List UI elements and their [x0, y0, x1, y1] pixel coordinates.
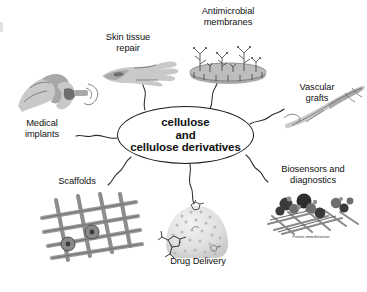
label-vascular-grafts: Vascular grafts [286, 82, 348, 104]
cellulose-applications-diagram: cellulose and cellulose derivatives Medi… [0, 0, 367, 292]
label-skin-tissue-repair: Skin tissue repair [92, 32, 164, 54]
illustration-biosensors [264, 192, 362, 236]
label-biosensors-and-diagnostics: Biosensors and diagnostics [263, 164, 363, 186]
label-medical-implants: Medical implants [6, 118, 78, 140]
label-drug-delivery: Drug Delivery [152, 256, 244, 267]
illustration-scaffolds [36, 192, 146, 264]
connector-medical-implants [76, 135, 117, 138]
illustration-medical-implants [12, 62, 104, 124]
connector-drug-delivery [189, 164, 194, 204]
center-node-cellulose: cellulose and cellulose derivatives [117, 106, 254, 164]
label-antimicrobial-membranes: Antimicrobial membranes [186, 6, 270, 28]
center-label-line-3: cellulose derivatives [130, 141, 240, 154]
illustration-skin-tissue-repair [100, 56, 182, 88]
label-scaffolds: Scaffolds [40, 176, 114, 187]
illustration-antimicrobial-membranes [186, 42, 270, 88]
caption-protein-immobilization: Protein immobilization [268, 235, 354, 239]
connector-vascular-grafts [250, 109, 284, 124]
center-label-line-2: and [175, 129, 195, 142]
illustration-drug-delivery [158, 200, 236, 262]
center-label-line-1: cellulose [161, 116, 209, 129]
center-label: cellulose and cellulose derivatives [117, 106, 254, 164]
